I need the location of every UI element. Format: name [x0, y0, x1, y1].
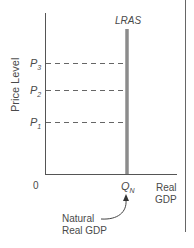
arrowhead-icon — [123, 194, 129, 201]
y-axis-title: Price Level — [9, 58, 21, 112]
x-axis-title-line2: GDP — [155, 194, 177, 205]
lras-label: LRAS — [115, 15, 141, 26]
annotation-line1: Natural — [62, 213, 94, 224]
annotation-line2: Real GDP — [62, 225, 107, 236]
annotation-arrow — [101, 200, 126, 219]
p1-label: P1 — [30, 116, 41, 130]
qn-label: QN — [121, 180, 136, 194]
p3-label: P3 — [30, 57, 41, 71]
p2-label: P2 — [30, 84, 41, 98]
lras-diagram: LRAS Price Level P3 P2 P1 0 QN Real GDP … — [0, 0, 194, 248]
origin-label: 0 — [33, 180, 39, 191]
x-axis-title-line1: Real — [156, 182, 177, 193]
